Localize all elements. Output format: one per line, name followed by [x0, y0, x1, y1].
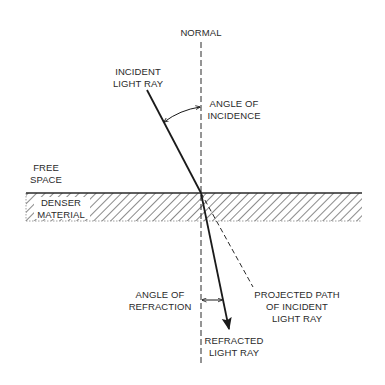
angle-of-incidence-arc: [164, 107, 200, 122]
normal-label: NORMAL: [180, 27, 221, 38]
svg-text:SPACE: SPACE: [30, 174, 62, 185]
svg-text:PROJECTED PATH: PROJECTED PATH: [254, 289, 340, 300]
svg-text:INCIDENCE: INCIDENCE: [207, 110, 260, 121]
refraction-diagram: NORMAL INCIDENT LIGHT RAY ANGLE OF INCID…: [0, 0, 385, 385]
svg-text:REFRACTION: REFRACTION: [129, 301, 192, 312]
svg-text:LIGHT RAY: LIGHT RAY: [272, 313, 323, 324]
projected-path-label: PROJECTED PATH OF INCIDENT LIGHT RAY: [254, 289, 340, 324]
svg-text:FREE: FREE: [33, 162, 59, 173]
refracted-ray-label: REFRACTED LIGHT RAY: [205, 335, 264, 358]
svg-text:ANGLE OF: ANGLE OF: [210, 98, 259, 109]
svg-text:LIGHT RAY: LIGHT RAY: [113, 78, 164, 89]
svg-text:DENSER: DENSER: [41, 197, 81, 208]
svg-text:REFRACTED: REFRACTED: [205, 335, 264, 346]
svg-text:OF INCIDENT: OF INCIDENT: [266, 301, 328, 312]
incident-ray-label: INCIDENT LIGHT RAY: [113, 66, 164, 89]
free-space-label: FREE SPACE: [30, 162, 62, 185]
svg-text:ANGLE OF: ANGLE OF: [136, 289, 185, 300]
svg-text:LIGHT RAY: LIGHT RAY: [209, 347, 260, 358]
angle-of-refraction-label: ANGLE OF REFRACTION: [129, 289, 192, 312]
angle-of-incidence-label: ANGLE OF INCIDENCE: [207, 98, 260, 121]
denser-material-label: DENSER MATERIAL: [37, 197, 85, 220]
svg-text:INCIDENT: INCIDENT: [115, 66, 161, 77]
incident-ray: [147, 90, 201, 193]
svg-text:MATERIAL: MATERIAL: [37, 209, 85, 220]
